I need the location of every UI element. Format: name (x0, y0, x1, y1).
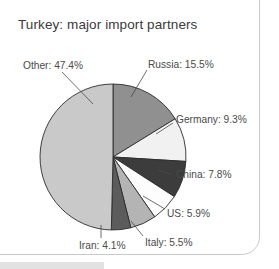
pie-label-germany: Germany: 9.3% (176, 114, 247, 125)
chart-screenshot: Turkey: major import partners (0, 0, 279, 269)
pie-label-us: US: 5.9% (167, 208, 210, 219)
pie-label-russia: Russia: 15.5% (148, 59, 214, 70)
pie-label-italy: Italy: 5.5% (145, 237, 193, 248)
pie-label-other: Other: 47.4% (23, 60, 83, 71)
pie-slice-other[interactable] (40, 84, 113, 230)
pie-chart-graphic (0, 0, 279, 269)
pie-label-iran: Iran: 4.1% (79, 240, 125, 251)
pie-label-china: China: 7.8% (176, 169, 232, 180)
